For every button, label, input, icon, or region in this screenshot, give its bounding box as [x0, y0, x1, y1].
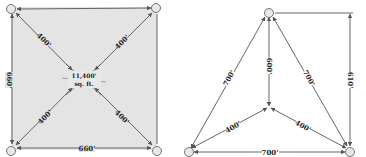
node-top-left — [7, 5, 16, 14]
area-label-line2: sq. ft. — [74, 80, 93, 88]
center-right-label: 400' — [293, 118, 312, 134]
center-vertical-label: 600' — [265, 58, 274, 75]
height-label: 610' — [346, 72, 355, 89]
bottom-side-label: 700' — [262, 148, 279, 157]
node-bottom-right — [153, 147, 162, 156]
node-top — [265, 9, 274, 18]
area-label-line1: 11,400' — [72, 72, 97, 79]
triangle-diagram-svg: 700' 700' 600' 400' 400' 700' 610' — [183, 0, 366, 157]
node-bottom-left — [185, 148, 194, 157]
node-top-right — [152, 4, 161, 13]
center-left-label: 400' — [223, 119, 242, 135]
triangle-layout-diagram: 700' 700' 600' 400' 400' 700' 610' — [183, 0, 366, 157]
node-bottom-right — [346, 148, 355, 157]
square-diagram-svg: 11,400' sq. ft. 400' 400' 400' 400' 660'… — [0, 0, 183, 157]
bottom-side-label: 660' — [79, 144, 96, 153]
square-layout-diagram: 11,400' sq. ft. 400' 400' 400' 400' 660'… — [0, 0, 183, 157]
right-side-label: 700' — [301, 68, 317, 87]
left-side-label: 660' — [5, 72, 14, 89]
node-bottom-left — [7, 147, 16, 156]
